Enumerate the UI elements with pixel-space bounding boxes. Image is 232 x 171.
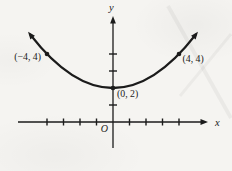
point-label: (−4, 4) (14, 51, 41, 63)
parabola-figure: (−4, 4)(0, 2)(4, 4)xyO (0, 0, 232, 171)
y-axis-arrowhead (110, 16, 116, 24)
point-dot (111, 86, 116, 91)
point-dot (45, 52, 50, 57)
y-axis-label: y (108, 2, 114, 13)
origin-label: O (101, 123, 108, 134)
point-label: (4, 4) (183, 53, 204, 65)
x-axis-arrowhead (201, 119, 209, 125)
graph-canvas: (−4, 4)(0, 2)(4, 4)xyO (0, 0, 232, 171)
point-dot (177, 52, 182, 57)
point-label: (0, 2) (117, 88, 138, 100)
x-axis-label: x (214, 117, 220, 128)
